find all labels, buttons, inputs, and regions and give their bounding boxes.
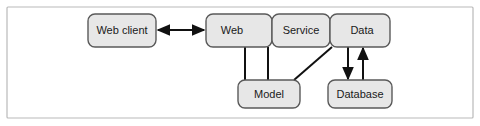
architecture-diagram: Web client Web Service Data Model Databa…: [0, 0, 480, 126]
node-data[interactable]: Data: [330, 14, 390, 47]
node-model[interactable]: Model: [238, 80, 300, 108]
node-label-model: Model: [254, 88, 284, 100]
node-database[interactable]: Database: [328, 80, 392, 108]
node-label-database: Database: [336, 88, 383, 100]
node-label-data: Data: [350, 24, 374, 36]
diagram-figure: Web client Web Service Data Model Databa…: [0, 0, 480, 126]
node-label-service: Service: [283, 24, 320, 36]
node-web[interactable]: Web: [206, 14, 272, 47]
node-web-client[interactable]: Web client: [88, 14, 156, 47]
node-service[interactable]: Service: [272, 14, 330, 47]
node-label-web: Web: [221, 24, 243, 36]
node-label-web-client: Web client: [96, 24, 147, 36]
